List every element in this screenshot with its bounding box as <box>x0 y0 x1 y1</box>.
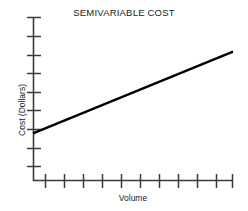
chart-container: SEMIVARIABLE COST <box>0 0 248 211</box>
semivariable-cost-line <box>33 52 233 134</box>
y-axis-label: Cost (Dollars) <box>17 50 27 170</box>
plot-area <box>0 0 248 211</box>
x-axis-label: Volume <box>33 193 233 203</box>
